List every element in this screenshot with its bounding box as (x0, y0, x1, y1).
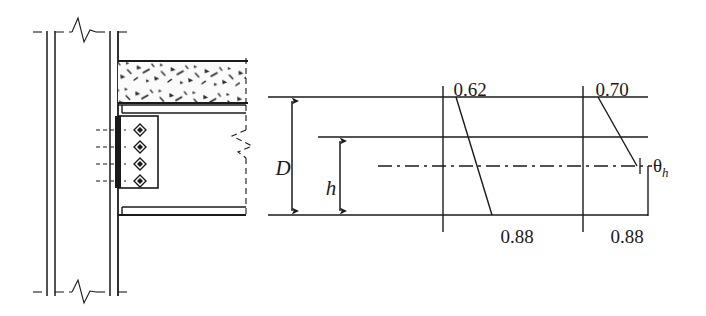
theta-glyph: θ (653, 155, 662, 176)
label-value-bottom-right: 0.88 (610, 226, 643, 247)
theta-subscript: h (662, 165, 669, 180)
label-rotation-theta: θh (653, 155, 669, 180)
drawing-canvas: D h 0.62 0.70 0.88 0.88 θh (0, 0, 706, 316)
beam-break-line (232, 105, 252, 215)
label-value-bottom-left: 0.88 (500, 226, 533, 247)
deformation-line-2 (598, 97, 637, 166)
concrete-slab (118, 58, 248, 103)
label-value-top-right: 0.70 (595, 79, 628, 100)
label-web-depth-h: h (326, 176, 337, 200)
bolted-shear-plate (96, 116, 158, 188)
engineering-drawing-figure: D h 0.62 0.70 0.88 0.88 θh (0, 0, 706, 316)
weld-line (115, 116, 121, 188)
concrete-slab-fill (118, 62, 246, 102)
deformation-line-1 (456, 97, 492, 215)
label-beam-depth-D: D (274, 156, 290, 180)
label-value-top-left: 0.62 (453, 79, 486, 100)
deformation-diagram: D h 0.62 0.70 0.88 0.88 θh (268, 79, 669, 247)
